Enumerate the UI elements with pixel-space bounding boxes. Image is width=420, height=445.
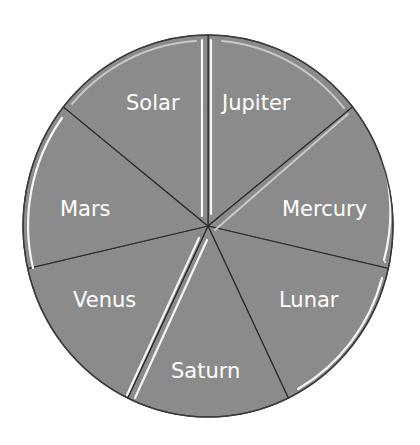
pie-chart: Solar Jupiter Mercury Mars Venus Lunar S… (0, 0, 420, 445)
pie-chart-canvas: Solar Jupiter Mercury Mars Venus Lunar S… (0, 0, 420, 445)
slice-label-saturn: Saturn (171, 359, 240, 383)
slice-label-mars: Mars (60, 197, 111, 221)
slice-label-jupiter: Jupiter (220, 91, 291, 115)
slice-label-lunar: Lunar (279, 288, 339, 312)
slice-label-mercury: Mercury (282, 197, 367, 221)
slice-label-solar: Solar (126, 91, 180, 115)
slice-label-venus: Venus (73, 288, 136, 312)
